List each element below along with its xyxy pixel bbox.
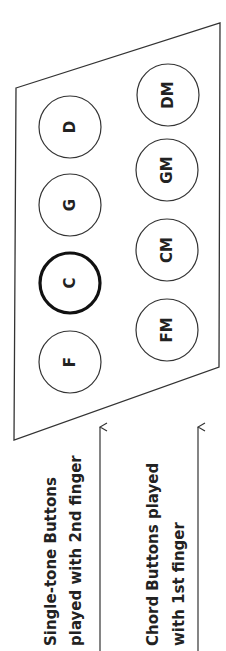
button-label: D	[61, 121, 79, 133]
single-tone-button-d[interactable]: D	[39, 96, 101, 158]
button-label: GM	[158, 156, 176, 183]
button-label: CM	[158, 237, 176, 263]
single-tone-button-f[interactable]: F	[39, 331, 101, 393]
caption-single-tone-line2: played with 2nd finger	[67, 455, 85, 646]
chord-button-cm[interactable]: CM	[136, 219, 198, 281]
button-layout-diagram: D G C F DM GM CM FM Single-tone Buttons …	[0, 0, 226, 651]
single-tone-button-g[interactable]: G	[39, 174, 101, 236]
caption-chord-line2: with 1st finger	[170, 521, 188, 646]
button-label: C	[61, 277, 79, 288]
button-label: FM	[158, 317, 176, 342]
button-label: G	[61, 199, 79, 211]
chord-button-dm[interactable]: DM	[137, 64, 199, 126]
caption-single-tone-line1: Single-tone Buttons	[42, 477, 60, 646]
chord-button-fm[interactable]: FM	[136, 299, 198, 361]
button-label: DM	[159, 81, 177, 108]
single-tone-button-c[interactable]: C	[40, 253, 100, 313]
caption-chord-line1: Chord Buttons played	[144, 463, 162, 646]
chord-button-gm[interactable]: GM	[136, 139, 198, 201]
button-label: F	[61, 357, 79, 367]
